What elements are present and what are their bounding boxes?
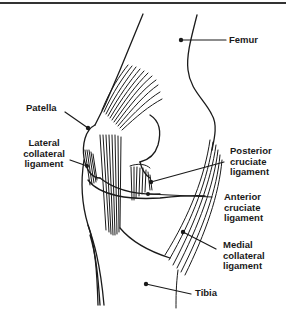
femur-outline bbox=[95, 14, 215, 150]
label-patella: Patella bbox=[26, 103, 57, 114]
leader-dot-femur bbox=[179, 38, 183, 42]
leader-dot-lateral-collateral bbox=[85, 164, 89, 168]
leader-dot-patella bbox=[86, 126, 90, 130]
leader-dot-medial-collateral bbox=[181, 230, 185, 234]
leader-patella bbox=[65, 112, 88, 128]
label-anterior-cruciate-ligament: Anterior cruciate ligament bbox=[224, 192, 263, 224]
tibia-outline bbox=[82, 160, 205, 305]
label-posterior-cruciate-ligament: Posterior cruciate ligament bbox=[230, 146, 272, 178]
diagram-canvas: Femur Patella Lateral collateral ligamen… bbox=[0, 0, 286, 315]
leader-tibia bbox=[146, 284, 191, 294]
quadriceps-tendon-fibers bbox=[102, 65, 162, 130]
label-lateral-collateral-ligament: Lateral collateral ligament bbox=[18, 138, 70, 170]
leader-dot-anterior-cruciate bbox=[146, 192, 150, 196]
label-femur: Femur bbox=[229, 35, 258, 46]
leader-posterior-cruciate bbox=[151, 162, 224, 182]
label-tibia: Tibia bbox=[195, 288, 217, 299]
leader-dot-posterior-cruciate bbox=[149, 180, 153, 184]
label-medial-collateral-ligament: Medial collateral ligament bbox=[223, 240, 265, 272]
leader-dot-tibia bbox=[144, 282, 148, 286]
